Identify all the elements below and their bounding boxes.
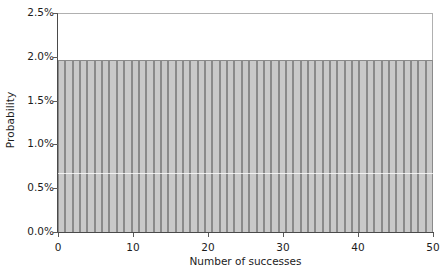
bar: [264, 60, 271, 232]
y-axis-tick-mark: [53, 144, 58, 145]
x-axis-line: [57, 232, 434, 233]
bar: [95, 60, 102, 232]
x-axis-tick-mark: [208, 233, 209, 237]
bar: [146, 60, 153, 232]
bar: [65, 60, 72, 232]
bar: [168, 60, 175, 232]
bar: [124, 60, 131, 232]
bar: [183, 60, 190, 232]
y-axis-tick-label: 2.5%: [10, 7, 54, 18]
bar: [117, 60, 124, 232]
bar: [382, 60, 389, 232]
y-axis-tick-mark: [53, 57, 58, 58]
bar: [374, 60, 381, 232]
x-axis-tick-label: 20: [188, 241, 228, 253]
bar: [330, 60, 337, 232]
bar: [411, 60, 418, 232]
bar: [58, 60, 65, 232]
bar: [154, 60, 161, 232]
bar: [301, 60, 308, 232]
y-axis-tick-label: 0.5%: [10, 182, 54, 193]
x-axis-tick-mark: [133, 233, 134, 237]
y-axis-tick-label: 0.0%: [10, 226, 54, 237]
bar: [87, 60, 94, 232]
bar: [132, 60, 139, 232]
bar: [234, 60, 241, 232]
y-axis-tick-label: 1.5%: [10, 95, 54, 106]
x-axis-tick-mark: [283, 233, 284, 237]
bar: [198, 60, 205, 232]
bar: [139, 60, 146, 232]
y-axis-tick-mark: [53, 232, 58, 233]
bar: [352, 60, 359, 232]
x-axis-tick-mark: [358, 233, 359, 237]
y-axis-tick-label: 1.0%: [10, 138, 54, 149]
x-axis-tick-label: 40: [338, 241, 378, 253]
y-axis-tick-mark: [53, 101, 58, 102]
bar: [323, 60, 330, 232]
bar: [404, 60, 411, 232]
bar: [345, 60, 352, 232]
bar: [249, 60, 256, 232]
bar: [359, 60, 366, 232]
y-axis-line: [57, 13, 58, 233]
bar: [257, 60, 264, 232]
bar: [389, 60, 396, 232]
bar: [161, 60, 168, 232]
bar: [109, 60, 116, 232]
bar: [286, 60, 293, 232]
bar: [102, 60, 109, 232]
bar: [73, 60, 80, 232]
y-axis-tick-mark: [53, 13, 58, 14]
bar: [293, 60, 300, 232]
x-axis-tick-mark: [433, 233, 434, 237]
bar: [242, 60, 249, 232]
bar: [396, 60, 403, 232]
bar: [337, 60, 344, 232]
bar: [418, 60, 425, 232]
bar: [220, 60, 227, 232]
bar: [367, 60, 374, 232]
x-axis-tick-label: 50: [413, 241, 443, 253]
x-axis-tick-label: 30: [263, 241, 303, 253]
x-axis-tick-label: 0: [38, 241, 78, 253]
bar: [426, 60, 433, 232]
x-axis-tick-mark: [58, 233, 59, 237]
bar: [271, 60, 278, 232]
bar: [212, 60, 219, 232]
x-axis-title: Number of successes: [58, 255, 433, 267]
y-axis-tick-labels: 0.0%0.5%1.0%1.5%2.0%2.5%: [8, 0, 54, 272]
bar: [315, 60, 322, 232]
y-axis-tick-label: 2.0%: [10, 51, 54, 62]
bar: [205, 60, 212, 232]
bar: [176, 60, 183, 232]
bar: [308, 60, 315, 232]
bar-chart: Probability 0.0%0.5%1.0%1.5%2.0%2.5% 010…: [0, 0, 443, 272]
bar: [227, 60, 234, 232]
x-axis-tick-label: 10: [113, 241, 153, 253]
bar: [190, 60, 197, 232]
bars-layer: [58, 13, 433, 232]
bar: [279, 60, 286, 232]
y-axis-tick-mark: [53, 188, 58, 189]
bar: [80, 60, 87, 232]
